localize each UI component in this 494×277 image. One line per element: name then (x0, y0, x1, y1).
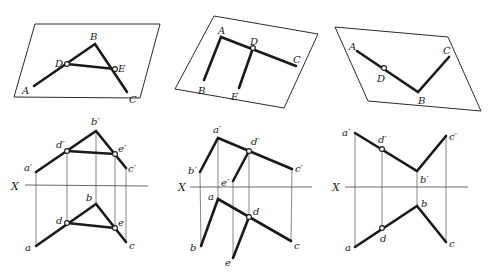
label-b: b (190, 242, 196, 253)
label-A: A (217, 25, 225, 36)
label-c-prime: c′ (449, 131, 458, 142)
point-d-prime-marker (247, 149, 252, 154)
label-a-prime: a′ (24, 162, 33, 173)
label-c-prime: c′ (128, 163, 137, 174)
label-b-prime: b′ (188, 165, 197, 176)
top-line-de (67, 223, 115, 228)
figure-3-projection: X a′ b′ c′ d′ a b c d (331, 127, 468, 253)
point-e-marker (113, 67, 118, 72)
label-d: d (380, 233, 386, 244)
label-b: b (86, 192, 92, 203)
label-c: c (294, 240, 300, 251)
label-E: E (230, 91, 239, 102)
line-abc (357, 51, 449, 92)
label-d: d (56, 215, 62, 226)
label-B: B (89, 31, 97, 42)
label-d-prime: d′ (378, 134, 387, 145)
point-d-prime-marker (65, 149, 70, 154)
label-c: c (449, 238, 455, 249)
label-e: e (118, 217, 124, 228)
label-a: a (345, 242, 351, 253)
x-axis-label: X (177, 181, 187, 194)
top-line-abc (355, 206, 446, 247)
label-b: b (421, 198, 427, 209)
plane-parallelogram (335, 27, 481, 111)
figure-3-spatial-view: A B C D (335, 27, 481, 111)
orthographic-projection-diagram: A B C D E X a′ b′ (0, 0, 494, 277)
figure-1-spatial-view: A B C D E (14, 24, 160, 105)
point-d-prime-marker (380, 147, 385, 152)
label-d-prime: d′ (56, 139, 65, 150)
label-b-prime: b′ (420, 174, 429, 185)
label-a-prime: a′ (213, 124, 222, 135)
label-e-prime: e′ (221, 177, 230, 188)
label-a: a (25, 242, 31, 253)
label-d: d (253, 206, 259, 217)
label-c: c (129, 240, 135, 251)
label-d-prime: d′ (251, 136, 260, 147)
x-axis-label: X (331, 181, 341, 194)
plane-parallelogram (14, 24, 160, 98)
label-c-prime: c′ (295, 163, 304, 174)
figure-1-projection: X a′ b′ c′ d′ e′ a b c d (10, 116, 148, 253)
front-line-de (67, 151, 115, 154)
top-line-de (233, 217, 249, 258)
label-E: E (117, 63, 126, 74)
x-axis (25, 185, 148, 186)
label-a-prime: a′ (342, 127, 351, 138)
line-de (239, 48, 253, 88)
label-B: B (197, 85, 205, 96)
point-d-top-marker (380, 226, 385, 231)
label-a: a (208, 191, 214, 202)
figure-2-spatial-view: A B C D E (175, 16, 318, 108)
front-line-de (233, 151, 249, 181)
label-C: C (443, 45, 451, 56)
point-e-top-marker (113, 226, 118, 231)
connector-c (291, 169, 292, 241)
figure-3: A B C D X a′ b′ c′ d′ a b c d (331, 27, 481, 253)
label-B: B (417, 95, 425, 106)
label-D: D (376, 73, 385, 84)
figure-1: A B C D E X a′ b′ (10, 24, 160, 253)
point-d-top-marker (65, 221, 70, 226)
label-b-prime: b′ (91, 116, 100, 127)
point-d-top-marker (247, 215, 252, 220)
label-C: C (293, 54, 301, 65)
label-e: e (225, 257, 231, 268)
x-axis-label: X (10, 180, 20, 193)
label-D: D (249, 36, 258, 47)
point-e-prime-marker (113, 152, 118, 157)
figure-2-projection: X a′ b′ c′ d′ e′ a b c d e (177, 124, 312, 268)
point-d-marker (65, 62, 70, 67)
figure-2: A B C D E X a′ b′ c′ d′ e′ a b (175, 16, 318, 268)
front-line-abc (355, 133, 446, 171)
connector-b (200, 172, 201, 246)
label-A: A (348, 41, 356, 52)
point-d-marker (382, 66, 387, 71)
label-A: A (21, 85, 29, 96)
label-e-prime: e′ (118, 143, 127, 154)
label-D: D (54, 58, 63, 69)
label-C: C (129, 94, 137, 105)
